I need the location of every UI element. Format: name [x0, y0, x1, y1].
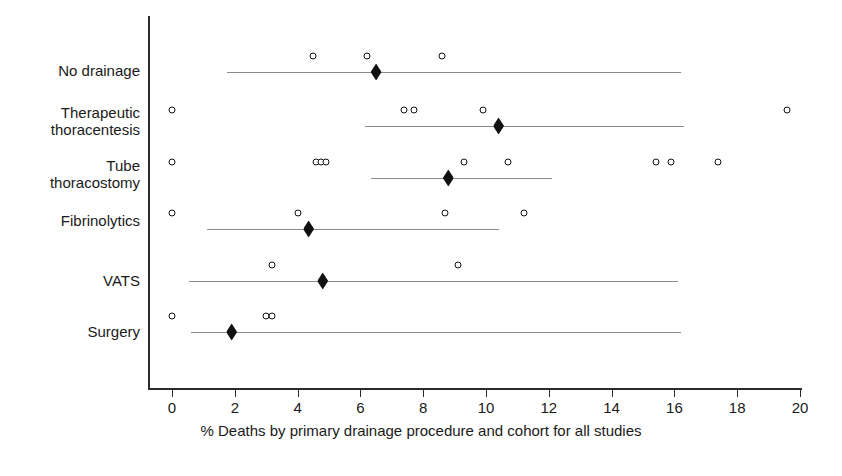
category-label-tube-thoracostomy: Tube thoracostomy [50, 157, 140, 191]
study-point-marker [652, 159, 659, 166]
x-tick-label: 18 [729, 399, 746, 416]
x-tick-mark [737, 390, 738, 397]
study-point-marker [269, 313, 276, 320]
x-tick-label: 2 [231, 399, 239, 416]
study-point-marker [520, 210, 527, 217]
x-tick-mark [674, 390, 675, 397]
study-point-marker [461, 159, 468, 166]
study-point-marker [442, 210, 449, 217]
category-label-vats: VATS [103, 272, 140, 289]
x-tick-label: 6 [356, 399, 364, 416]
study-point-marker [169, 313, 176, 320]
x-tick-mark [612, 390, 613, 397]
x-tick-mark [172, 390, 173, 397]
category-axis-labels: No drainageTherapeutic thoracentesisTube… [0, 0, 140, 400]
study-point-marker [169, 159, 176, 166]
study-point-marker [479, 107, 486, 114]
confidence-interval-line [207, 229, 499, 230]
x-tick-label: 12 [540, 399, 557, 416]
x-tick-mark [423, 390, 424, 397]
study-point-marker [668, 159, 675, 166]
study-point-marker [269, 262, 276, 269]
figure-container: No drainageTherapeutic thoracentesisTube… [0, 0, 842, 476]
category-label-fibrinolytics: Fibrinolytics [61, 212, 140, 229]
study-point-marker [169, 107, 176, 114]
study-point-marker [454, 262, 461, 269]
study-point-marker [715, 159, 722, 166]
study-point-marker [439, 53, 446, 60]
study-point-marker [410, 107, 417, 114]
x-tick-label: 14 [603, 399, 620, 416]
confidence-interval-line [365, 126, 684, 127]
confidence-interval-line [189, 281, 677, 282]
x-tick-mark [486, 390, 487, 397]
x-tick-mark [549, 390, 550, 397]
study-point-marker [322, 159, 329, 166]
x-tick-mark [800, 390, 801, 397]
x-tick-label: 20 [792, 399, 809, 416]
study-point-marker [363, 53, 370, 60]
category-label-therapeutic-thoracentesis: Therapeutic thoracentesis [51, 104, 140, 138]
confidence-interval-line [227, 72, 681, 73]
confidence-interval-line [191, 332, 681, 333]
x-tick-label: 10 [478, 399, 495, 416]
study-point-marker [169, 210, 176, 217]
x-tick-label: 16 [666, 399, 683, 416]
category-label-surgery: Surgery [87, 323, 140, 340]
x-tick-mark [360, 390, 361, 397]
confidence-interval-line [371, 178, 552, 179]
study-point-marker [401, 107, 408, 114]
category-label-no-drainage: No drainage [58, 62, 140, 79]
study-point-marker [784, 107, 791, 114]
study-point-marker [310, 53, 317, 60]
x-tick-mark [298, 390, 299, 397]
x-tick-label: 8 [419, 399, 427, 416]
x-tick-mark [235, 390, 236, 397]
x-tick-label: 4 [293, 399, 301, 416]
study-point-marker [294, 210, 301, 217]
x-axis-line [148, 388, 802, 390]
study-point-marker [504, 159, 511, 166]
x-tick-label: 0 [168, 399, 176, 416]
x-axis-title: % Deaths by primary drainage procedure a… [0, 422, 842, 439]
